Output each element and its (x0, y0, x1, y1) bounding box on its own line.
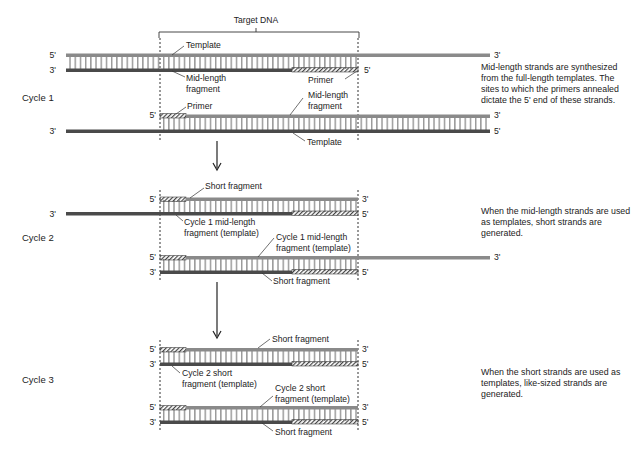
mid-length-strand (66, 69, 292, 73)
svg-text:5': 5' (494, 126, 501, 136)
svg-text:3': 3' (150, 417, 157, 427)
target-dna-bracket: Target DNA (159, 15, 359, 38)
svg-text:Cycle 1 mid-length: Cycle 1 mid-length (276, 232, 347, 242)
cycle3-top-duplex (160, 348, 358, 367)
svg-text:Short fragment: Short fragment (205, 181, 262, 191)
svg-text:5': 5' (150, 194, 157, 204)
label-template-top: Template (186, 40, 221, 50)
svg-text:5': 5' (150, 402, 157, 412)
svg-text:5': 5' (50, 50, 57, 60)
svg-text:5': 5' (362, 417, 369, 427)
cycle1-bottom-duplex (66, 114, 490, 134)
cycle-1-description: Mid-length strands are synthesized from … (481, 62, 631, 106)
svg-text:5': 5' (150, 110, 157, 120)
svg-text:Cycle 2 short: Cycle 2 short (182, 368, 233, 378)
svg-text:Short fragment: Short fragment (272, 334, 329, 344)
svg-text:fragment (template): fragment (template) (182, 379, 257, 389)
cycle3-bottom-duplex (160, 406, 358, 425)
svg-text:fragment: fragment (308, 101, 343, 111)
svg-text:3': 3' (362, 194, 369, 204)
cycle2-bottom-duplex (160, 256, 490, 275)
cycle-3-description: When the short strands are used as templ… (481, 367, 631, 400)
cycle-1-label: Cycle 1 (22, 92, 54, 103)
svg-text:Cycle 2 short: Cycle 2 short (275, 383, 326, 393)
svg-text:5': 5' (362, 267, 369, 277)
cycle-3-label: Cycle 3 (22, 374, 54, 385)
svg-text:5': 5' (362, 359, 369, 369)
svg-text:3': 3' (50, 209, 57, 219)
svg-text:5': 5' (150, 252, 157, 262)
primer (160, 114, 186, 119)
arrow-down-icon (213, 141, 221, 170)
svg-text:fragment (template): fragment (template) (184, 228, 259, 238)
svg-text:5': 5' (150, 344, 157, 354)
svg-text:Primer: Primer (308, 75, 333, 85)
template-strand (66, 130, 490, 134)
svg-text:3': 3' (494, 50, 501, 60)
svg-text:Primer: Primer (187, 101, 212, 111)
svg-text:3': 3' (494, 252, 501, 262)
svg-text:Mid-length: Mid-length (186, 73, 226, 83)
cycle-2-label: Cycle 2 (22, 232, 54, 243)
target-dna-label: Target DNA (234, 15, 279, 25)
svg-text:5': 5' (364, 65, 371, 75)
cycle1-top-duplex (66, 54, 490, 73)
svg-text:3': 3' (494, 110, 501, 120)
svg-text:3': 3' (50, 65, 57, 75)
svg-text:3': 3' (50, 126, 57, 136)
svg-text:Cycle 1 mid-length: Cycle 1 mid-length (184, 217, 255, 227)
svg-text:3': 3' (150, 359, 157, 369)
cycle2-top-duplex (66, 197, 358, 216)
template-strand (66, 54, 490, 58)
mid-length-strand (186, 115, 490, 119)
svg-text:Template: Template (307, 137, 342, 147)
primer (292, 68, 358, 73)
svg-text:5': 5' (362, 209, 369, 219)
svg-text:3': 3' (362, 344, 369, 354)
svg-text:Short fragment: Short fragment (273, 276, 330, 286)
arrow-down-icon (213, 282, 221, 338)
svg-text:Mid-length: Mid-length (308, 90, 348, 100)
svg-text:Short fragment: Short fragment (275, 427, 332, 437)
svg-text:fragment (template): fragment (template) (275, 394, 350, 404)
svg-text:3': 3' (362, 402, 369, 412)
svg-text:fragment: fragment (186, 84, 221, 94)
svg-text:fragment (template): fragment (template) (276, 243, 351, 253)
cycle-2-description: When the mid-length strands are used as … (481, 206, 631, 239)
svg-text:3': 3' (150, 267, 157, 277)
